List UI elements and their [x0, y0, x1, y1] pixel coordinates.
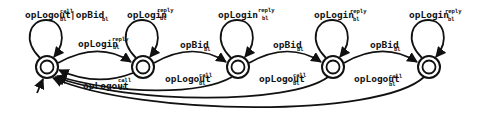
svg-text:bl: bl	[160, 15, 167, 21]
svg-text:call: call	[293, 72, 306, 78]
svg-text:bl: bl	[60, 16, 67, 22]
svg-text:bl: bl	[353, 16, 360, 22]
svg-text:bl: bl	[394, 46, 401, 52]
svg-text:bl: bl	[293, 80, 300, 86]
state-s1	[132, 56, 154, 78]
svg-text:bl: bl	[199, 80, 206, 86]
label-s1-s0: opLogout call bl	[83, 77, 131, 91]
svg-text:opLogin: opLogin	[218, 9, 258, 20]
svg-text:bl: bl	[102, 16, 109, 22]
svg-text:reply: reply	[258, 7, 275, 14]
label-s2-s3: opBid bl	[273, 39, 304, 52]
svg-text:bl: bl	[262, 15, 269, 21]
label-s3-s0: opLogout call bl	[259, 72, 306, 86]
label-s0-loop: opLogout call bl |opBid bl	[25, 8, 109, 22]
self-loop-s2	[221, 20, 253, 58]
svg-text:reply: reply	[445, 8, 462, 15]
edge-s2-s3	[249, 52, 321, 63]
label-s1-loop: opLogin reply bl	[127, 7, 174, 21]
self-loop-s0	[30, 20, 62, 58]
svg-text:bl: bl	[297, 46, 304, 52]
svg-text:bl: bl	[119, 85, 126, 91]
svg-text:reply: reply	[157, 7, 174, 14]
edge-s3-s4	[344, 52, 417, 63]
label-s2-loop: opLogin reply bl	[218, 7, 275, 21]
self-loop-s3	[316, 20, 348, 58]
label-s3-loop: opLogin reply bl	[314, 8, 367, 22]
svg-text:call: call	[199, 72, 212, 78]
edge-s0-s1	[58, 52, 131, 63]
self-loop-s1	[126, 20, 158, 58]
state-s3	[322, 56, 344, 78]
self-loop-s4	[412, 20, 444, 58]
svg-text:reply: reply	[112, 36, 129, 43]
label-s3-s4: opBid bl	[370, 39, 401, 52]
svg-text:bl: bl	[113, 44, 120, 50]
edge-s1-s2	[154, 52, 226, 63]
label-s0-s1: opLogin reply bl	[78, 36, 129, 50]
label-s4-s0: opLogout call bl	[354, 73, 402, 87]
svg-text:opLogin: opLogin	[314, 9, 354, 20]
state-s2	[227, 56, 249, 78]
initial-arrow	[37, 79, 43, 93]
label-s1-s2: opBid bl	[180, 39, 211, 52]
svg-text:call: call	[118, 77, 131, 83]
svg-text:bl: bl	[448, 16, 455, 22]
label-s2-s0: opLogout call bl	[165, 72, 212, 86]
state-s0	[36, 56, 58, 78]
svg-text:bl: bl	[204, 46, 211, 52]
svg-text:|opBid: |opBid	[70, 9, 105, 20]
label-s4-loop: opLogin reply bl	[409, 8, 462, 22]
state-s4	[418, 56, 440, 78]
svg-text:bl: bl	[389, 81, 396, 87]
svg-text:call: call	[389, 73, 402, 79]
svg-text:opLogin: opLogin	[409, 9, 449, 20]
state-diagram: opLogout call bl |opBid bl opLogin reply…	[0, 0, 479, 128]
svg-text:reply: reply	[350, 8, 367, 15]
